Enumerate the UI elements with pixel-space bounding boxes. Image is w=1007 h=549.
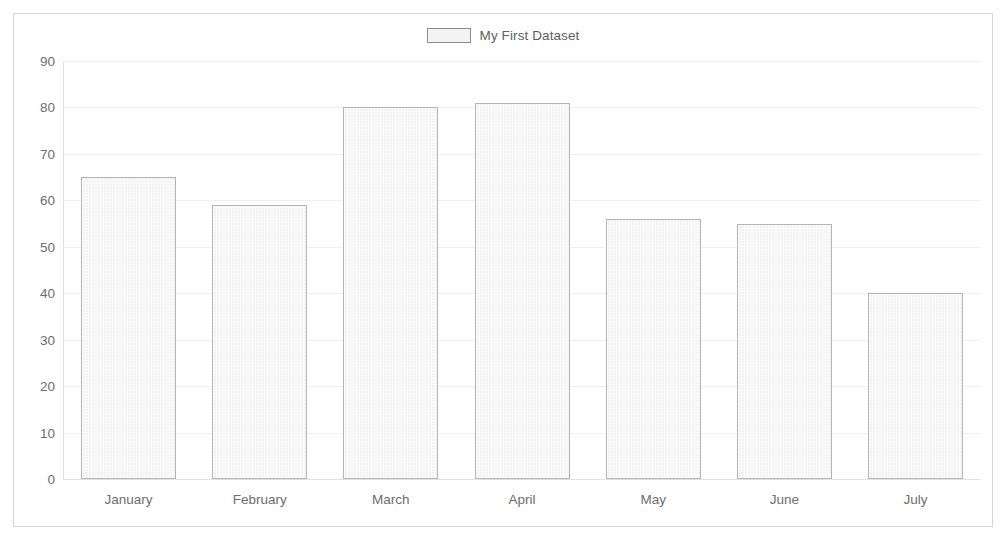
y-axis-tick-label: 90 xyxy=(40,54,55,69)
x-axis-tick-label: June xyxy=(770,492,799,507)
y-axis-tick-label: 40 xyxy=(40,286,55,301)
legend-item-label: My First Dataset xyxy=(480,28,580,43)
bar[interactable] xyxy=(343,107,438,479)
bar[interactable] xyxy=(475,103,570,479)
x-axis-tick-label: April xyxy=(508,492,535,507)
y-axis-tick-label: 70 xyxy=(40,146,55,161)
x-axis-tick-label: January xyxy=(105,492,153,507)
gridline xyxy=(63,479,981,480)
bar[interactable] xyxy=(868,293,963,479)
y-axis-tick-label: 10 xyxy=(40,425,55,440)
y-axis-tick-label: 20 xyxy=(40,379,55,394)
legend-swatch-icon xyxy=(427,28,471,43)
x-axis-tick-label: March xyxy=(372,492,410,507)
bar[interactable] xyxy=(212,205,307,479)
chart-legend: My First Dataset xyxy=(14,28,992,43)
y-axis-tick-label: 80 xyxy=(40,100,55,115)
y-axis-tick-label: 0 xyxy=(47,472,55,487)
plot-area xyxy=(63,61,981,479)
legend-item-my-first-dataset[interactable]: My First Dataset xyxy=(427,28,580,43)
y-axis-tick-label: 50 xyxy=(40,239,55,254)
x-axis-tick-label: May xyxy=(640,492,666,507)
bar[interactable] xyxy=(81,177,176,479)
bar[interactable] xyxy=(737,224,832,479)
y-axis-tick-label: 30 xyxy=(40,332,55,347)
x-axis-tick-labels: JanuaryFebruaryMarchAprilMayJuneJuly xyxy=(63,484,981,514)
x-axis-tick-label: February xyxy=(233,492,287,507)
x-axis-tick-label: July xyxy=(903,492,927,507)
y-axis-tick-labels: 0102030405060708090 xyxy=(14,61,55,479)
chart-frame: My First Dataset 0102030405060708090 Jan… xyxy=(13,13,993,527)
gridline xyxy=(63,61,981,62)
y-axis-tick-label: 60 xyxy=(40,193,55,208)
bar[interactable] xyxy=(606,219,701,479)
